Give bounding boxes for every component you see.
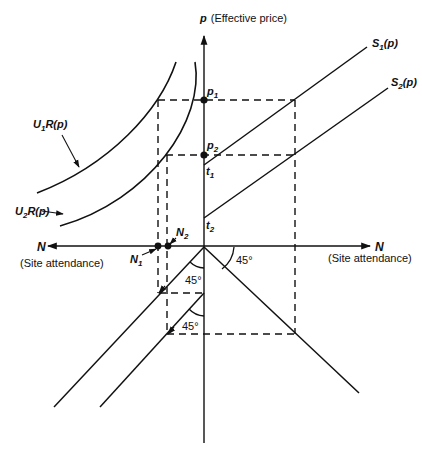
s1-label: S1(p) bbox=[372, 37, 398, 52]
angle-arc-left-lower bbox=[189, 309, 204, 316]
s1-supply-line bbox=[204, 47, 367, 165]
u2-label: U2R(p) bbox=[15, 205, 50, 220]
s2-label: S2(p) bbox=[391, 76, 417, 91]
angle-label-left-upper: 45° bbox=[185, 274, 202, 286]
p-axis-label: p(Effective price) bbox=[199, 12, 287, 24]
n2-pointer-arrow bbox=[170, 238, 176, 244]
n2-label: N2 bbox=[176, 226, 189, 241]
right-45-line bbox=[204, 247, 359, 393]
left-45-line-lower bbox=[100, 293, 204, 407]
s2-supply-line bbox=[204, 88, 388, 218]
angle-label-left-lower: 45° bbox=[182, 320, 199, 332]
n1-point bbox=[155, 243, 162, 250]
n-left-label: (Site attendance) bbox=[20, 257, 104, 269]
angle-label-right: 45° bbox=[236, 254, 253, 266]
p2-label: p2 bbox=[206, 139, 219, 154]
t2-label: t2 bbox=[206, 219, 215, 234]
u1-pointer-arrow bbox=[62, 135, 79, 167]
supply-demand-diagram: p(Effective price) N (Site attendance) N… bbox=[0, 0, 422, 456]
u2-demand-curve bbox=[60, 62, 196, 226]
p2-point bbox=[200, 151, 207, 158]
angle-arc-left-upper bbox=[190, 262, 204, 268]
t1-label: t1 bbox=[206, 165, 215, 180]
n1-pointer-arrow bbox=[142, 249, 156, 255]
p1-label: p1 bbox=[206, 85, 219, 100]
n-left-symbol: N bbox=[37, 240, 46, 254]
n-right-label: (Site attendance) bbox=[328, 252, 412, 264]
p1-point bbox=[200, 96, 207, 103]
u1-label: U1R(p) bbox=[33, 118, 68, 133]
n1-label: N1 bbox=[130, 253, 143, 268]
